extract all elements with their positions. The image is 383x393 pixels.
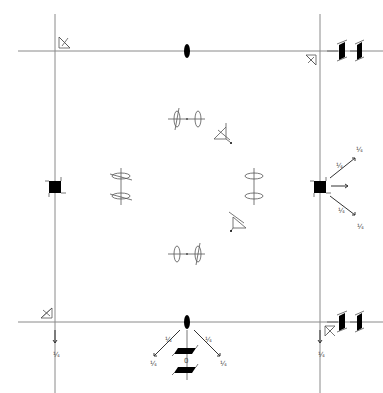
right-arrows: ¼ ¼ ¼ ¼: [330, 146, 364, 231]
svg-text:¼: ¼: [220, 360, 227, 368]
interior-bottom-lens-pair-icon: [168, 243, 205, 265]
svg-text:¼: ¼: [150, 360, 157, 368]
svg-text:¼: ¼: [338, 207, 345, 215]
bottom-2fold-axis-icon: [184, 315, 190, 329]
interior-bottom-right-triangle-icon: [229, 212, 246, 232]
top-2fold-axis-icon: [184, 44, 190, 58]
svg-text:¼: ¼: [53, 351, 60, 359]
interior-top-lens-pair-icon: [168, 108, 205, 130]
svg-text:¼: ¼: [336, 162, 343, 170]
svg-text:¼: ¼: [357, 223, 364, 231]
corner-bl-triangle-icon: [41, 308, 52, 318]
interior-right-lens-pair-icon: [245, 168, 263, 205]
corner-tr-triangle-icon: [306, 55, 316, 65]
svg-text:¼: ¼: [205, 336, 212, 344]
svg-text:¼: ¼: [165, 336, 172, 344]
symmetry-diagram: ¼ ¼ ¼ ¼ ¼ ¼ 0 ¼ ¼ ¼: [0, 0, 383, 393]
interior-top-right-triangle-icon: [214, 123, 232, 144]
interior-left-lens-pair-icon: [110, 168, 132, 205]
svg-text:0: 0: [184, 357, 188, 365]
svg-text:¼: ¼: [356, 146, 363, 154]
svg-text:¼: ¼: [318, 351, 325, 359]
bottom-center-tetrad-icon: 0 ¼ ¼ ¼ ¼: [150, 330, 227, 380]
corner-br-triangle-icon: [325, 326, 335, 336]
corner-tl-triangle-icon: [59, 37, 70, 48]
down-arrows: ¼ ¼: [53, 330, 325, 359]
